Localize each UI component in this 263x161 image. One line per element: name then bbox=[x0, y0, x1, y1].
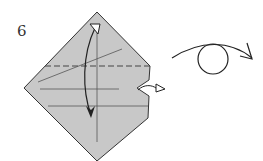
pull-arrow-head-icon bbox=[156, 84, 165, 92]
paper-diamond bbox=[24, 12, 150, 161]
turn-over-arrow bbox=[172, 45, 252, 59]
pull-arrow bbox=[138, 86, 156, 90]
turn-over-circle-icon bbox=[198, 44, 228, 74]
origami-diagram bbox=[0, 0, 263, 161]
